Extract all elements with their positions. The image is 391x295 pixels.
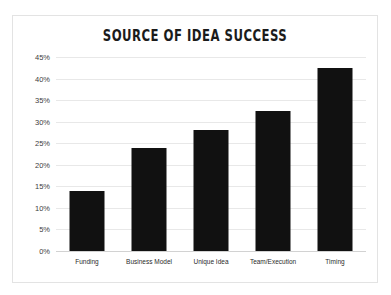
- plot-area: 45%40%35%30%25%20%15%10%5%0% FundingBusi…: [56, 57, 366, 251]
- y-axis-tick-label: 35%: [35, 96, 50, 105]
- bar-series: FundingBusiness ModelUnique IdeaTeam/Exe…: [56, 57, 366, 251]
- bar-slot: Funding: [56, 57, 118, 251]
- bar[interactable]: [256, 111, 291, 251]
- y-axis-tick-label: 20%: [35, 160, 50, 169]
- chart-title: SOURCE OF IDEA SUCCESS: [53, 27, 337, 45]
- y-axis-tick-label: 25%: [35, 139, 50, 148]
- bar[interactable]: [194, 130, 229, 251]
- y-axis-tick-label: 0%: [39, 247, 50, 256]
- bar-slot: Business Model: [118, 57, 180, 251]
- y-axis-tick-label: 40%: [35, 74, 50, 83]
- x-axis-category-label: Team/Execution: [250, 258, 296, 265]
- chart-card: SOURCE OF IDEA SUCCESS 45%40%35%30%25%20…: [12, 15, 378, 283]
- bar[interactable]: [70, 191, 105, 251]
- y-axis-tick-label: 45%: [35, 53, 50, 62]
- bar[interactable]: [132, 148, 167, 251]
- y-axis-tick-label: 15%: [35, 182, 50, 191]
- x-axis-category-label: Unique Idea: [193, 258, 228, 265]
- y-axis-tick-label: 10%: [35, 203, 50, 212]
- x-axis-category-label: Business Model: [126, 258, 172, 265]
- bar-slot: Timing: [304, 57, 366, 251]
- gridline: [56, 251, 366, 252]
- x-axis-category-label: Funding: [75, 258, 99, 265]
- y-axis-tick-label: 30%: [35, 117, 50, 126]
- bar-slot: Team/Execution: [242, 57, 304, 251]
- y-axis-tick-label: 5%: [39, 225, 50, 234]
- x-axis-category-label: Timing: [325, 258, 344, 265]
- bar-slot: Unique Idea: [180, 57, 242, 251]
- bar[interactable]: [318, 68, 353, 251]
